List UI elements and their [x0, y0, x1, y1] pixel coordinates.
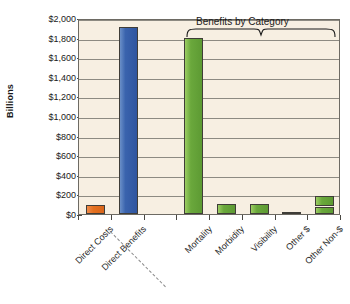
bar[interactable] — [282, 212, 301, 214]
x-tick-label: Other $ — [284, 224, 312, 252]
x-tick-label: Mortality — [183, 224, 214, 255]
x-axis-ticks — [78, 215, 340, 220]
plot-area — [78, 19, 340, 215]
x-tick-mark — [209, 215, 210, 220]
y-tick-label: $800 — [24, 132, 76, 142]
y-tick-label: $1,600 — [24, 53, 76, 63]
x-tick-mark — [307, 215, 308, 220]
bracket-label: Benefits by Category — [196, 16, 289, 27]
bar[interactable] — [184, 38, 203, 214]
y-tick-label: $0 — [24, 210, 76, 220]
bar[interactable] — [217, 204, 236, 214]
x-tick-label: Morbidity — [214, 224, 247, 257]
x-tick-mark — [144, 215, 145, 220]
y-tick-label: $1,800 — [24, 34, 76, 44]
y-tick-label: $1,400 — [24, 73, 76, 83]
bar-segment[interactable] — [315, 196, 334, 207]
bar[interactable] — [86, 205, 105, 214]
x-tick-mark — [111, 215, 112, 220]
bar-segment[interactable] — [315, 207, 334, 214]
y-tick-label: $1,200 — [24, 92, 76, 102]
chart-figure: Billions $2,000$1,800$1,600$1,400$1,200$… — [0, 0, 350, 304]
bar[interactable] — [250, 204, 269, 214]
y-tick-label: $2,000 — [24, 14, 76, 24]
x-tick-label: Visibility — [249, 224, 279, 254]
x-tick-mark — [78, 215, 79, 220]
x-tick-mark — [340, 215, 341, 220]
y-axis-title: Billions — [5, 71, 15, 131]
y-tick-label: $400 — [24, 171, 76, 181]
y-tick-label: $600 — [24, 151, 76, 161]
x-tick-mark — [242, 215, 243, 220]
curly-brace-icon — [186, 28, 336, 38]
y-tick-label: $200 — [24, 190, 76, 200]
y-tick-label: $1,000 — [24, 112, 76, 122]
x-tick-mark — [275, 215, 276, 220]
x-tick-mark — [176, 215, 177, 220]
bar[interactable] — [119, 27, 138, 214]
